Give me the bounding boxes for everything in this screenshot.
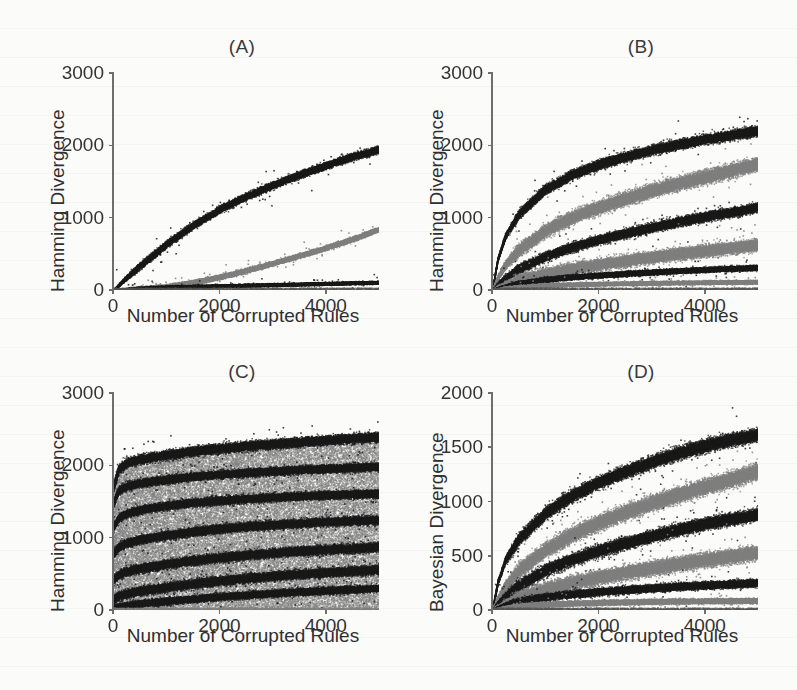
panel-b-title: (B) [471, 36, 797, 58]
panel-d-plot-area [492, 393, 758, 610]
panel-c-x-tick [219, 610, 221, 614]
panel-d-y-tick [488, 392, 493, 394]
panel-d-title: (D) [471, 361, 797, 383]
panel-a-plot-area [113, 73, 379, 290]
panel-a-x-tick [325, 290, 327, 294]
panel-c-scatter-canvas [113, 393, 379, 610]
panel-d-y-axis-label: Bayesian Divergence [427, 432, 446, 612]
panel-d: (D) Bayesian Divergence Number of Corrup… [399, 345, 797, 690]
panel-b-x-tick [491, 290, 493, 294]
panel-c-plot-area [113, 393, 379, 610]
panel-c: (C) Hamming Divergence Number of Corrupt… [0, 345, 398, 690]
panel-d-y-tick [488, 501, 493, 503]
panel-a-y-tick [109, 145, 114, 147]
panel-c-y-tick [109, 537, 114, 539]
figure-four-panel-scatter: (A) Hamming Divergence Number of Corrupt… [0, 0, 797, 690]
panel-b-x-tick-label: 0 [452, 296, 532, 315]
panel-d-x-tick-label: 4000 [665, 616, 745, 635]
panel-d-scatter-canvas [492, 393, 758, 610]
panel-c-x-tick-label: 2000 [179, 616, 259, 635]
panel-a-x-tick-label: 0 [73, 296, 153, 315]
panel-a: (A) Hamming Divergence Number of Corrupt… [0, 0, 398, 345]
panel-c-y-tick [109, 392, 114, 394]
panel-d-x-tick-label: 0 [452, 616, 532, 635]
panel-b-x-tick [598, 290, 600, 294]
panel-c-y-axis [112, 393, 114, 611]
panel-d-x-tick [704, 610, 706, 614]
panel-b-y-tick [488, 217, 493, 219]
panel-b-scatter-canvas [492, 73, 758, 290]
panel-d-x-tick [598, 610, 600, 614]
panel-a-y-tick [109, 72, 114, 74]
panel-c-title: (C) [72, 361, 412, 383]
panel-c-x-tick-label: 4000 [286, 616, 366, 635]
panel-a-y-tick [109, 217, 114, 219]
panel-c-x-tick-label: 0 [73, 616, 153, 635]
panel-a-x-tick-label: 4000 [286, 296, 366, 315]
panel-b-x-tick [704, 290, 706, 294]
panel-c-x-tick [112, 610, 114, 614]
panel-a-scatter-canvas [113, 73, 379, 290]
panel-b-y-tick [488, 72, 493, 74]
panel-a-title: (A) [72, 36, 412, 58]
panel-d-y-tick [488, 446, 493, 448]
panel-d-x-tick-label: 2000 [558, 616, 638, 635]
panel-b: (B) Hamming Divergence Number of Corrupt… [399, 0, 797, 345]
panel-c-y-tick [109, 465, 114, 467]
panel-a-x-tick-label: 2000 [179, 296, 259, 315]
panel-a-x-tick [219, 290, 221, 294]
panel-c-x-tick [325, 610, 327, 614]
panel-b-x-tick-label: 2000 [558, 296, 638, 315]
panel-b-plot-area [492, 73, 758, 290]
panel-b-y-tick [488, 145, 493, 147]
panel-d-x-tick [491, 610, 493, 614]
panel-a-y-axis [112, 73, 114, 291]
panel-b-y-axis [491, 73, 493, 291]
panel-a-x-tick [112, 290, 114, 294]
panel-b-x-tick-label: 4000 [665, 296, 745, 315]
panel-d-y-tick [488, 555, 493, 557]
